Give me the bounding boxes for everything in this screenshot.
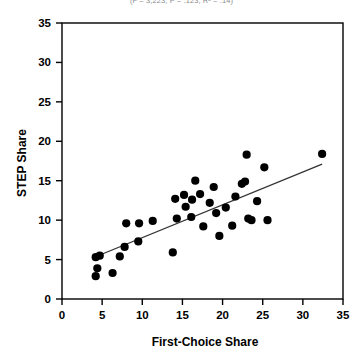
svg-text:25[interactable]: 25: [256, 309, 269, 321]
figure-caption: (F = 3,223; P = .123; R² = .14): [0, 0, 363, 5]
tick-labels-group: 0510152025303505101520253035: [38, 17, 350, 321]
svg-text:25[interactable]: 25: [38, 96, 51, 108]
svg-text:5[interactable]: 5: [99, 309, 106, 321]
figure-container: (F = 3,223; P = .123; R² = .14) 05101520…: [0, 0, 363, 357]
svg-text:20[interactable]: 20: [38, 135, 51, 147]
svg-text:0[interactable]: 0: [59, 309, 65, 321]
axes-group: [62, 23, 343, 299]
svg-text:10[interactable]: 10: [38, 214, 51, 226]
svg-text:0[interactable]: 0: [45, 293, 51, 305]
data-points-group: [92, 150, 327, 280]
y-axis-title: STEP Share: [15, 129, 29, 197]
svg-text:35[interactable]: 35: [337, 309, 350, 321]
x-axis-title: First-Choice Share: [152, 335, 259, 349]
svg-text:15[interactable]: 15: [38, 175, 51, 187]
svg-text:5[interactable]: 5: [45, 254, 52, 266]
ticks-group: [56, 23, 343, 305]
scatter-plot: 0510152025303505101520253035 First-Choic…: [0, 0, 363, 357]
svg-text:30[interactable]: 30: [296, 309, 309, 321]
svg-text:15[interactable]: 15: [176, 309, 189, 321]
svg-text:30[interactable]: 30: [38, 56, 51, 68]
svg-text:10[interactable]: 10: [136, 309, 149, 321]
svg-text:35[interactable]: 35: [38, 17, 51, 29]
svg-text:20[interactable]: 20: [216, 309, 229, 321]
figure-caption-strip: (F = 3,223; P = .123; R² = .14): [0, 0, 363, 9]
